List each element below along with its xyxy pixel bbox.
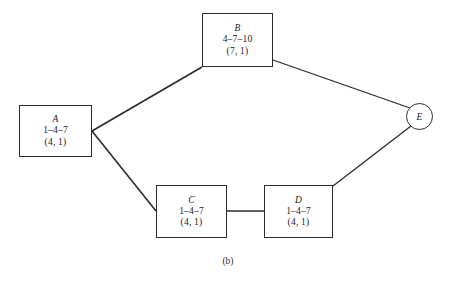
- node-e[interactable]: E: [406, 103, 433, 130]
- node-c-label: C: [188, 195, 195, 206]
- node-c[interactable]: C 1–4–7 (4, 1): [156, 185, 227, 238]
- node-e-label: E: [416, 112, 422, 122]
- node-a-params: (4, 1): [45, 137, 67, 148]
- node-d-params: (4, 1): [288, 217, 310, 228]
- node-d-times: 1–4–7: [286, 206, 311, 217]
- edge-a-to-b: [92, 67, 202, 131]
- node-b[interactable]: B 4–7–10 (7, 1): [202, 13, 273, 67]
- figure-container: A 1–4–7 (4, 1) B 4–7–10 (7, 1) C 1–4–7 (…: [0, 0, 456, 283]
- node-c-params: (4, 1): [181, 217, 203, 228]
- edge-d-to-e: [333, 126, 411, 186]
- node-b-params: (7, 1): [227, 46, 249, 57]
- node-d-label: D: [295, 195, 302, 206]
- node-a-times: 1–4–7: [43, 125, 68, 136]
- edge-a-to-c: [92, 131, 156, 211]
- node-a[interactable]: A 1–4–7 (4, 1): [19, 105, 92, 157]
- node-a-label: A: [52, 114, 58, 125]
- edge-b-to-e: [273, 60, 410, 108]
- node-b-label: B: [234, 23, 240, 34]
- figure-caption: (b): [0, 256, 456, 266]
- node-c-times: 1–4–7: [179, 206, 204, 217]
- node-b-times: 4–7–10: [223, 34, 253, 45]
- node-d[interactable]: D 1–4–7 (4, 1): [264, 185, 333, 238]
